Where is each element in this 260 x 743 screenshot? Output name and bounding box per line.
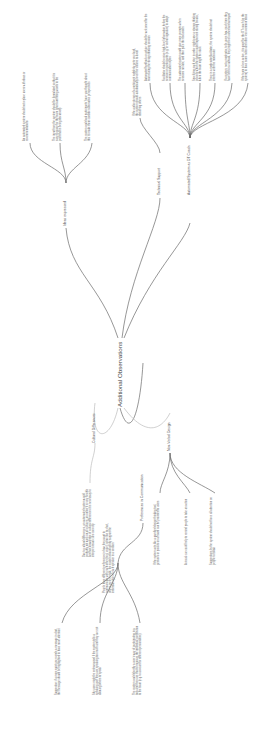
leaf-pref-2: Suggestion: if a more quiet user sends a…: [56, 625, 62, 695]
branch-ideas-expressed[interactable]: Ideas expressed: [64, 201, 68, 226]
connector-lines: [0, 0, 260, 743]
leaf-pref-3: Shy users might be embarrassed if the sy…: [94, 625, 103, 695]
leaf-coach-6: If a system, not a moderator, tells user…: [226, 11, 232, 81]
branch-preferences-communication[interactable]: Preferences in Communication: [141, 475, 145, 521]
leaf-coach-7: If the team is less active, it is good f…: [243, 11, 249, 81]
leaf-ideas-1: An automated system should not replace u…: [24, 71, 30, 141]
leaf-ideas-2: The input from the system should be form…: [54, 71, 63, 141]
leaf-nonverbal-3: Suggestions by the system should not for…: [211, 495, 217, 565]
leaf-coach-5: There is a moderator/facilitator; the sy…: [211, 11, 217, 81]
branch-technical-support[interactable]: Technical Support: [158, 168, 162, 195]
leaf-nonverbal-2: A visual cue could help to remind people…: [186, 495, 189, 565]
leaf-pref-4: The system could identify a user's way o…: [134, 625, 143, 695]
leaf-coach-1: Automated feedback or advice should be w…: [146, 11, 152, 81]
leaf-cultural-1: Due to cultural differences, an automate…: [84, 487, 96, 557]
leaf-tech-1: If the audio stream of a participant sud…: [134, 46, 143, 116]
branch-cultural-differences[interactable]: Cultural Differences: [93, 413, 97, 443]
leaf-coach-3: The automated system could give more pro…: [180, 11, 186, 81]
root-node: Additional Observations: [116, 342, 123, 407]
leaf-ideas-3: The system could ask participants 'have …: [86, 71, 92, 141]
branch-automated-system-dt-coach[interactable]: Automated System as DT Coach: [188, 146, 192, 195]
mind-map-canvas: Additional Observations Ideas expressed …: [0, 0, 260, 743]
leaf-coach-2: Facilitator should receive high-level in…: [164, 11, 173, 81]
leaf-coach-4: Specifying each step in order might ease…: [194, 11, 203, 81]
leaf-pref-1: People have different preferences in how…: [104, 523, 116, 593]
leaf-nonverbal-1: If the system acts like a gamified desig…: [155, 495, 161, 565]
branch-non-verbal-design[interactable]: Non-Verbal Design: [168, 423, 172, 451]
